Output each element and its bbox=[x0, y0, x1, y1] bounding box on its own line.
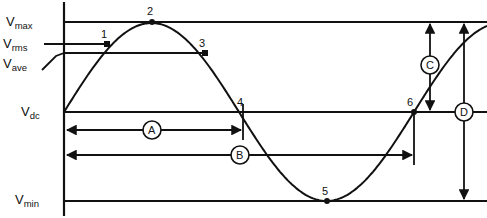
point-label-6: 6 bbox=[407, 97, 413, 108]
axis-label-vmax-base: V bbox=[6, 14, 15, 29]
axis-label-vdc-sub: dc bbox=[30, 110, 40, 121]
axis-label-vrms: Vrms bbox=[3, 37, 28, 50]
dimension-label-b: B bbox=[236, 150, 243, 161]
axis-label-vmax: Vmax bbox=[6, 15, 33, 28]
point-label-5: 5 bbox=[322, 186, 328, 197]
point-marker-1 bbox=[104, 41, 110, 47]
point-marker-2 bbox=[149, 19, 155, 25]
vave-leader-line bbox=[42, 53, 64, 70]
axis-label-vrms-sub: rms bbox=[12, 42, 28, 53]
axis-label-vmin-sub: min bbox=[24, 198, 39, 209]
axis-label-vdc-base: V bbox=[21, 104, 30, 119]
point-marker-3 bbox=[202, 50, 208, 56]
point-label-4: 4 bbox=[237, 97, 243, 108]
point-label-2: 2 bbox=[147, 6, 153, 17]
axis-label-vave-sub: ave bbox=[12, 62, 27, 73]
dimension-label-c: C bbox=[426, 60, 434, 71]
dimension-label-d: D bbox=[460, 107, 468, 118]
axis-label-vmin-base: V bbox=[15, 192, 24, 207]
axis-label-vrms-base: V bbox=[3, 36, 12, 51]
axis-label-vdc: Vdc bbox=[21, 105, 40, 118]
axis-label-vmax-sub: max bbox=[15, 20, 33, 31]
point-label-1: 1 bbox=[101, 29, 107, 40]
dimension-label-a: A bbox=[148, 125, 155, 136]
point-label-3: 3 bbox=[199, 38, 205, 49]
point-marker-5 bbox=[324, 198, 330, 204]
axis-label-vave-base: V bbox=[3, 56, 12, 71]
axis-label-vmin: Vmin bbox=[15, 193, 39, 206]
axis-label-vave: Vave bbox=[3, 57, 27, 70]
waveform-diagram bbox=[0, 0, 487, 218]
point-marker-6 bbox=[411, 109, 417, 115]
waveform-figure: Vmax Vrms Vave Vdc Vmin 1 2 3 4 5 6 A B … bbox=[0, 0, 487, 218]
